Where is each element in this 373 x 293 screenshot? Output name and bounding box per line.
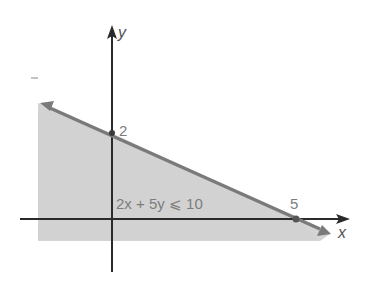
x-intercept-point	[293, 216, 300, 223]
x-axis-label: x	[337, 224, 347, 241]
shaded-region-texture	[38, 108, 318, 240]
y-axis-label: y	[117, 24, 127, 41]
y-intercept-label: 2	[119, 122, 127, 139]
inequality-label: 2x + 5y ⩽ 10	[116, 195, 203, 212]
y-intercept-point	[109, 130, 115, 136]
x-intercept-label: 5	[290, 195, 298, 212]
inequality-graph: y x 2 5 2x + 5y ⩽ 10	[0, 0, 373, 293]
